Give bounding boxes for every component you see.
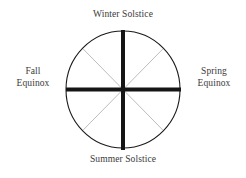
seasonal-wheel-figure: Winter Solstice Summer Solstice Fall Equ… <box>0 0 246 178</box>
label-fall-equinox: Fall Equinox <box>2 66 64 89</box>
label-spring-equinox: Spring Equinox <box>183 66 245 89</box>
wheel-graphic <box>0 0 246 178</box>
label-summer-solstice: Summer Solstice <box>0 154 246 166</box>
label-winter-solstice: Winter Solstice <box>0 9 246 21</box>
